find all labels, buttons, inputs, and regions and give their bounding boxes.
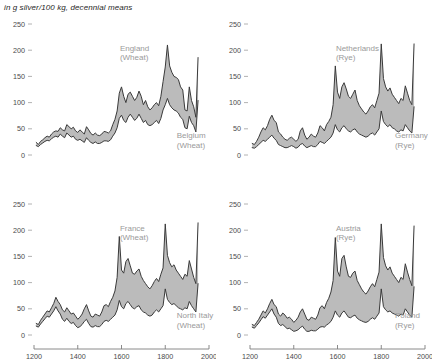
x-tick-label: 2000	[417, 352, 432, 360]
y-tick-label: 250	[13, 20, 25, 29]
y-tick-label: 100	[13, 98, 25, 107]
panel-0-svg: 050100150200250	[0, 0, 216, 180]
y-tick-label: 50	[17, 124, 25, 133]
series-annotation-label: Germany(Rye)	[395, 131, 428, 150]
x-tick-label: 1600	[330, 352, 346, 360]
y-tick-label: 150	[13, 72, 25, 81]
y-tick-label: 0	[21, 331, 25, 340]
series-annotation-line: (Wheat)	[177, 321, 213, 331]
panel-1-svg: 050100150200250	[216, 0, 432, 180]
x-tick-label: 2000	[201, 352, 216, 360]
series-annotation-label: France(Wheat)	[120, 224, 148, 243]
series-annotation-label: Netherlands(Rye)	[336, 44, 379, 63]
y-tick-label: 50	[17, 304, 25, 313]
price-range-band	[36, 45, 198, 147]
y-tick-label: 200	[229, 226, 241, 235]
y-tick-label: 150	[13, 252, 25, 261]
series-annotation-label: England(Wheat)	[120, 44, 149, 63]
y-tick-label: 100	[229, 98, 241, 107]
y-tick-label: 150	[229, 252, 241, 261]
y-tick-label: 200	[13, 46, 25, 55]
series-annotation-label: North Italy(Wheat)	[177, 311, 213, 330]
series-annotation-line: France	[120, 224, 148, 234]
y-tick-label: 250	[229, 200, 241, 209]
x-tick-label: 1800	[157, 352, 173, 360]
y-tick-label: 0	[237, 331, 241, 340]
x-tick-label: 1400	[286, 352, 302, 360]
x-tick-label: 1200	[242, 352, 258, 360]
series-annotation-line: England	[120, 44, 149, 54]
series-annotation-line: (Rye)	[336, 53, 379, 63]
panel-france-northitaly: 05010015020025012001400160018002000 Fran…	[0, 180, 216, 360]
series-annotation-line: Poland	[395, 311, 420, 321]
panel-netherlands-germany: 050100150200250 Netherlands(Rye)Germany(…	[216, 0, 432, 180]
series-annotation-line: (Wheat)	[177, 141, 206, 151]
y-tick-label: 50	[233, 124, 241, 133]
y-tick-label: 100	[229, 278, 241, 287]
series-annotation-line: (Wheat)	[120, 53, 149, 63]
y-tick-label: 250	[229, 20, 241, 29]
series-annotation-label: Poland(Rye)	[395, 311, 420, 330]
y-tick-label: 0	[237, 151, 241, 160]
series-annotation-line: North Italy	[177, 311, 213, 321]
series-annotation-label: Belgium(Wheat)	[177, 131, 206, 150]
y-tick-label: 100	[13, 278, 25, 287]
series-annotation-line: Netherlands	[336, 44, 379, 54]
y-tick-label: 200	[229, 46, 241, 55]
x-tick-label: 1400	[70, 352, 86, 360]
y-tick-label: 0	[21, 151, 25, 160]
x-tick-label: 1200	[26, 352, 42, 360]
series-annotation-label: Austria(Rye)	[336, 224, 361, 243]
y-tick-label: 200	[13, 226, 25, 235]
series-annotation-line: Germany	[395, 131, 428, 141]
panel-3-svg: 05010015020025012001400160018002000	[216, 180, 432, 360]
series-annotation-line: (Rye)	[336, 233, 361, 243]
series-annotation-line: Austria	[336, 224, 361, 234]
y-tick-label: 50	[233, 304, 241, 313]
series-annotation-line: (Wheat)	[120, 233, 148, 243]
series-annotation-line: (Rye)	[395, 141, 428, 151]
y-tick-label: 250	[13, 200, 25, 209]
x-tick-label: 1600	[114, 352, 130, 360]
y-tick-label: 150	[229, 72, 241, 81]
panel-england-belgium: 050100150200250 England(Wheat)Belgium(Wh…	[0, 0, 216, 180]
x-tick-label: 1800	[373, 352, 389, 360]
series-annotation-line: Belgium	[177, 131, 206, 141]
panel-austria-poland: 05010015020025012001400160018002000 Aust…	[216, 180, 432, 360]
panel-2-svg: 05010015020025012001400160018002000	[0, 180, 216, 360]
series-annotation-line: (Rye)	[395, 321, 420, 331]
